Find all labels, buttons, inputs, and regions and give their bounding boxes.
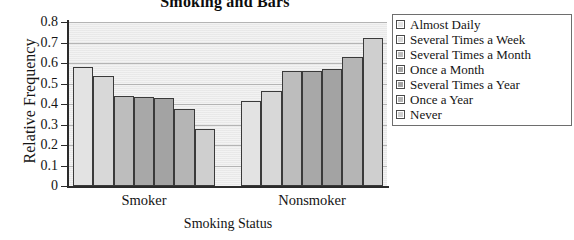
gridline [69,22,387,23]
bar [195,129,215,186]
y-axis-tick-label: 0.6 [18,56,58,70]
legend-item[interactable]: Almost Daily [396,17,568,32]
chart-root: Smoking and Bars Relative Frequency 0.80… [0,0,574,240]
legend-item-label: Almost Daily [410,17,480,32]
y-axis-tick [61,43,68,44]
legend-swatch-icon [396,20,405,29]
legend-item-label: Never [410,107,442,122]
y-axis-tick [61,145,68,146]
bar [342,57,362,186]
bar [174,109,194,186]
y-axis-tick [61,186,68,187]
x-axis-title: Smoking Status [69,216,387,232]
y-axis-tick [61,22,68,23]
bar [302,71,322,186]
y-axis-tick [61,104,68,105]
legend-item[interactable]: Never [396,107,568,122]
bar [73,67,93,186]
bar [134,97,154,186]
y-axis-tick [61,84,68,85]
bar [322,69,342,186]
y-axis-tick-label: 0.1 [18,159,58,173]
y-axis-tick-label: 0.7 [18,36,58,50]
legend-swatch-icon [396,110,405,119]
y-axis-tick-label: 0.8 [18,15,58,29]
legend-swatch-icon [396,50,405,59]
legend-items: Almost DailySeveral Times a WeekSeveral … [396,17,568,122]
bar [282,71,302,186]
bar [93,76,113,186]
legend-item-label: Several Times a Month [410,47,531,62]
legend-item[interactable]: Once a Month [396,62,568,77]
legend-swatch-icon [396,95,405,104]
bar [363,38,383,186]
y-axis-tick [61,63,68,64]
legend-swatch-icon [396,80,405,89]
y-axis-tick-label: 0 [18,179,58,193]
legend-item[interactable]: Once a Year [396,92,568,107]
y-axis-tick-label: 0.3 [18,118,58,132]
y-axis-tick [61,166,68,167]
bar [154,98,174,186]
x-axis-line [67,186,389,188]
y-axis-tick-label: 0.4 [18,97,58,111]
x-axis-group-label: Nonsmoker [241,192,383,208]
legend-item-label: Several Times a Week [410,32,525,47]
bar [241,101,261,186]
plot-area [69,22,387,186]
legend-swatch-icon [396,35,405,44]
bar [114,96,134,186]
legend-item-label: Once a Month [410,62,484,77]
chart-title: Smoking and Bars [60,0,390,13]
y-axis-tick-label: 0.2 [18,138,58,152]
legend-item-label: Once a Year [410,92,473,107]
legend-item-label: Several Times a Year [410,77,520,92]
y-axis-tick [61,125,68,126]
bar [261,91,281,186]
legend-item[interactable]: Several Times a Month [396,47,568,62]
legend-swatch-icon [396,65,405,74]
gridline [69,63,387,64]
legend: Almost DailySeveral Times a WeekSeveral … [392,14,572,126]
legend-item[interactable]: Several Times a Year [396,77,568,92]
legend-item[interactable]: Several Times a Week [396,32,568,47]
x-axis-group-label: Smoker [73,192,215,208]
y-axis-tick-label: 0.5 [18,77,58,91]
gridline [69,43,387,44]
